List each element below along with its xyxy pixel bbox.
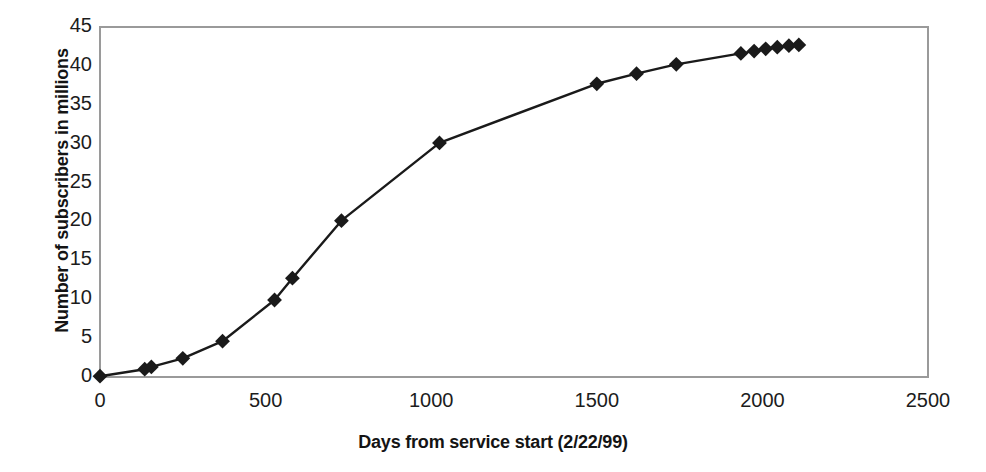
plot-frame	[100, 27, 928, 377]
chart-container: Number of subscribers in millions Days f…	[0, 0, 986, 472]
plot-area	[0, 0, 986, 472]
plot-border	[100, 27, 928, 377]
